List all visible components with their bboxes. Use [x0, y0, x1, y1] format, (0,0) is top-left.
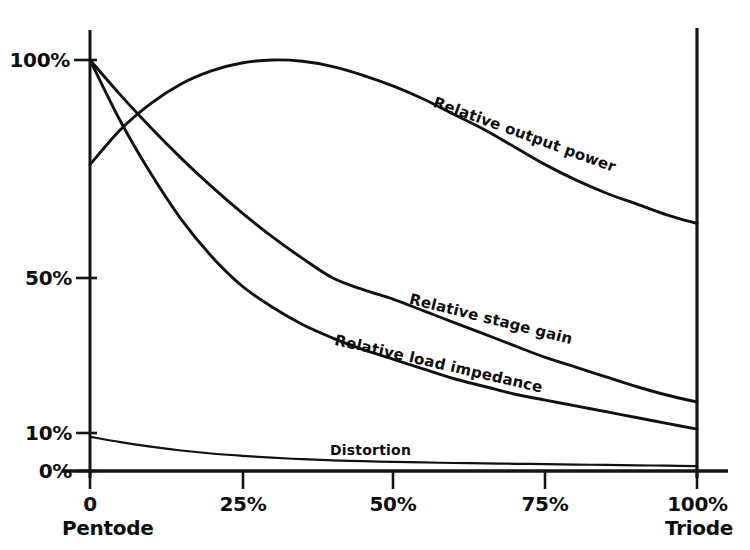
x-axis-end-label-triode: Triode	[665, 516, 733, 540]
x-axis-end-label-pentode: Pentode	[62, 516, 154, 540]
y-tick-label-100: 100%	[2, 48, 70, 72]
y-tick-label-10: 10%	[2, 421, 72, 445]
y-tick-label-50: 50%	[2, 266, 72, 290]
x-tick-label-25: 25%	[203, 492, 283, 516]
chart-plot-area	[0, 0, 750, 550]
x-tick-label-50: 50%	[353, 492, 433, 516]
curve-relative-load-impedance	[90, 60, 697, 429]
curve-relative-output-power	[90, 60, 697, 224]
x-tick-label-0: 0	[50, 492, 130, 516]
chart-figure: 100% 50% 10% 0% 0 25% 50% 75% 100% Pento…	[0, 0, 750, 550]
y-tick-label-0: 0%	[2, 459, 72, 483]
curve-label-distortion: Distortion	[330, 442, 411, 458]
x-tick-label-100: 100%	[650, 492, 745, 516]
x-tick-label-75: 75%	[505, 492, 585, 516]
